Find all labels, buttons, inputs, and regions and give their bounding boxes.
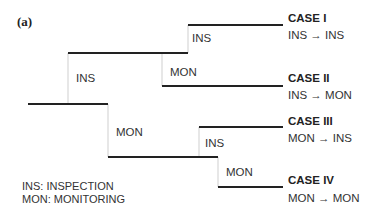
branch-label-root-upper: INS [76,72,95,84]
legend-mon: MON: MONITORING [22,193,125,206]
branch-label-root-lower: MON [116,126,143,138]
legend: INS: INSPECTION MON: MONITORING [22,180,125,206]
case-3-transition: MON → INS [288,132,352,144]
case-1-transition: INS → INS [288,29,344,41]
case-2-title: CASE II [288,72,330,84]
legend-ins: INS: INSPECTION [22,180,125,193]
case-4-transition: MON → MON [288,192,360,204]
branch-label-lower-lower: MON [226,166,253,178]
case-2-transition: INS → MON [288,89,352,101]
branch-label-upper-lower: MON [170,66,197,78]
panel-label: (a) [17,14,32,30]
case-3-title: CASE III [288,115,333,127]
branch-label-lower-upper: INS [205,137,224,149]
case-4-title: CASE IV [288,174,334,186]
branch-label-upper-upper: INS [192,32,211,44]
case-1-title: CASE I [288,12,326,24]
